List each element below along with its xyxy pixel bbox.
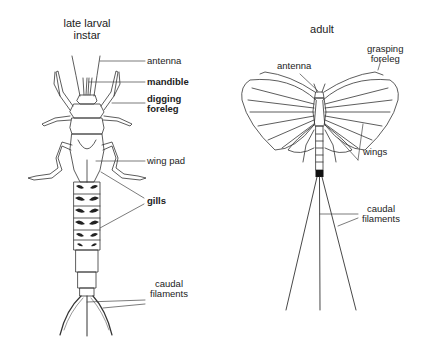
larva-illustration	[28, 56, 146, 336]
label-adult-antenna: antenna	[277, 61, 311, 71]
label-larva-caudal-line2: filaments	[150, 289, 188, 299]
label-larva-antenna: antenna	[147, 56, 181, 66]
adult-caudal-filaments	[286, 177, 356, 310]
label-mandible: mandible	[147, 77, 189, 87]
larva-title: late larval instar	[56, 17, 118, 41]
adult-title: adult	[304, 23, 340, 35]
label-digging-foreleg: digging foreleg	[147, 94, 181, 114]
label-larva-caudal-filaments: caudal filaments	[150, 279, 188, 299]
larva-title-line2: instar	[56, 29, 118, 41]
label-gills: gills	[147, 196, 166, 206]
adult-tail-segment	[316, 170, 324, 177]
label-grasping-foreleg: grasping foreleg	[367, 44, 403, 64]
label-wings: wings	[363, 147, 387, 157]
label-wing-pad: wing pad	[147, 156, 185, 166]
label-grasping-line2: foreleg	[367, 54, 403, 64]
label-adult-caudal-line2: filaments	[362, 214, 400, 224]
diagram-canvas	[0, 0, 421, 348]
label-adult-caudal-filaments: caudal filaments	[362, 204, 400, 224]
larva-title-line1: late larval	[56, 17, 118, 29]
adult-leader-lines	[300, 60, 381, 226]
label-digging-line2: foreleg	[147, 104, 181, 114]
